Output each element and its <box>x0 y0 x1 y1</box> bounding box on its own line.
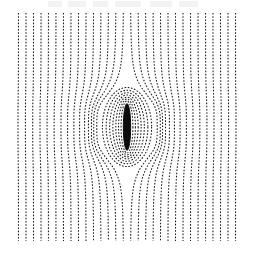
central-dipole-bar <box>123 104 130 151</box>
plot-area <box>13 13 241 241</box>
dipole-ellipse <box>123 104 130 151</box>
magnetic-field-plot <box>13 13 241 241</box>
figure-root <box>0 0 253 265</box>
cropped-caption-artifact <box>46 1 211 7</box>
